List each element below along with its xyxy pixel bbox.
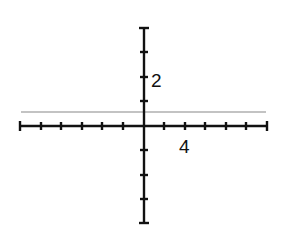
x-axis-label-4: 4: [179, 136, 190, 157]
y-axis-label-2: 2: [151, 70, 162, 91]
graph-canvas: 2 4: [0, 0, 286, 244]
